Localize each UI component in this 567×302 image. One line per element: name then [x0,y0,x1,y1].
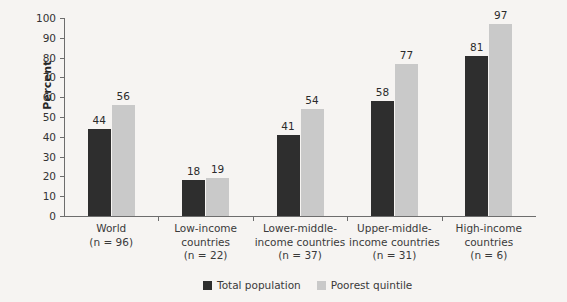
y-axis-tick-mark [60,97,64,98]
y-axis-tick-mark [60,77,64,78]
bar-poorest-quintile [489,24,512,216]
legend-swatch-icon [203,281,212,290]
x-axis-category-label: High-incomecountries(n = 6) [430,222,548,263]
y-axis-tick-mark [60,216,64,217]
y-axis-tick-label: 100 [16,13,56,23]
y-axis-tick-mark [60,117,64,118]
y-axis-tick-mark [60,58,64,59]
legend-label: Total population [217,279,301,291]
y-axis-tick-label: 30 [16,152,56,162]
y-axis-tick-label: 20 [16,171,56,181]
y-axis-tick-mark [60,157,64,158]
bar-poorest-quintile [301,109,324,216]
x-axis-line [64,216,536,217]
y-axis-tick-label: 10 [16,191,56,201]
y-axis-tick-mark [60,18,64,19]
y-axis-tick-label: 70 [16,72,56,82]
legend-item: Poorest quintile [317,279,413,291]
y-axis-tick-label: 60 [16,92,56,102]
x-axis-tick-mark [253,216,254,221]
bar-value-label: 97 [484,10,518,21]
y-axis-tick-mark [60,137,64,138]
bar-total-population [277,135,300,216]
y-axis-tick-mark [60,196,64,197]
bar-total-population [371,101,394,216]
x-axis-tick-mark [347,216,348,221]
bar-chart-figure: Percent 0102030405060708090100 445618194… [0,0,567,302]
legend-label: Poorest quintile [331,279,413,291]
legend-swatch-icon [317,281,326,290]
bar-value-label: 19 [201,164,235,175]
y-axis-tick-mark [60,176,64,177]
y-axis-tick-label: 40 [16,132,56,142]
y-axis-tick-label: 80 [16,53,56,63]
y-axis-tick-label: 0 [16,211,56,221]
bar-total-population [88,129,111,216]
y-axis-tick-mark [60,38,64,39]
bar-poorest-quintile [112,105,135,216]
y-axis-line [64,18,65,216]
x-axis-tick-mark [442,216,443,221]
bar-value-label: 77 [389,50,423,61]
chart-legend: Total populationPoorest quintile [203,279,412,291]
bar-poorest-quintile [206,178,229,216]
y-axis-tick-label: 90 [16,33,56,43]
bar-total-population [182,180,205,216]
legend-item: Total population [203,279,301,291]
y-axis-tick-label: 50 [16,112,56,122]
bar-value-label: 54 [295,95,329,106]
bar-total-population [465,56,488,216]
x-axis-tick-mark [158,216,159,221]
bar-poorest-quintile [395,64,418,216]
plot-area: 0102030405060708090100 44561819415458778… [64,18,536,216]
bar-value-label: 56 [106,91,140,102]
